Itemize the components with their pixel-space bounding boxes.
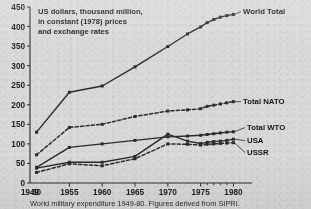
data-point [134, 115, 137, 118]
series-label-leader [234, 128, 245, 132]
y-tick-label: 400 [11, 23, 25, 32]
data-point [101, 123, 104, 126]
x-tick-label: 50 [32, 188, 42, 197]
y-tick-label: 150 [11, 120, 25, 129]
series-label-usa: USA [247, 136, 264, 145]
data-point [225, 101, 228, 104]
series-labels-group: World TotalTotal NATOTotal WTOUSAUSSR [234, 7, 285, 157]
data-point [186, 140, 189, 143]
figure-caption: World military expenditure 1949-80. Figu… [30, 199, 240, 208]
x-tick-label: 1960 [93, 188, 112, 197]
data-point [35, 131, 38, 134]
data-point [68, 91, 71, 94]
data-point [206, 105, 209, 108]
series-label-leader [234, 12, 241, 15]
data-point [219, 131, 222, 134]
x-tick-label: 1975 [192, 188, 211, 197]
series-label-leader [234, 143, 245, 153]
x-tick-label: 1955 [60, 188, 79, 197]
data-point [134, 65, 137, 68]
data-point [35, 153, 38, 156]
data-point [199, 25, 202, 28]
data-point [199, 144, 202, 147]
series-label-total-wto: Total WTO [247, 123, 285, 132]
data-point [219, 142, 222, 145]
data-point [35, 171, 38, 174]
data-point [212, 132, 215, 135]
data-point [166, 142, 169, 145]
data-point [206, 133, 209, 136]
data-point [101, 142, 104, 145]
chart-figure: 050100150200250300350400450 194950195519… [0, 0, 311, 209]
note-line-2: in constant (1978) prices [38, 17, 127, 26]
series-line-total-wto [37, 132, 234, 168]
data-point [68, 126, 71, 129]
data-point [68, 146, 71, 149]
data-point [35, 167, 38, 170]
data-point [199, 107, 202, 110]
series-label-total-nato: Total NATO [243, 97, 285, 106]
data-point [206, 21, 209, 24]
y-tick-label: 100 [11, 140, 25, 149]
data-point [186, 32, 189, 35]
x-axis-labels: 194950195519601965197019751980 [21, 188, 243, 197]
data-point [186, 135, 189, 138]
data-point [166, 135, 169, 138]
x-tick-label: 1980 [224, 188, 243, 197]
x-tick-label: 1965 [126, 188, 145, 197]
x-tick-label: 1970 [159, 188, 178, 197]
data-point [68, 162, 71, 165]
note-line-3: and exchange rates [38, 27, 109, 36]
y-axis-labels: 050100150200250300350400450 [11, 3, 25, 188]
military-expenditure-line-chart: 050100150200250300350400450 194950195519… [0, 0, 311, 209]
y-tick-label: 350 [11, 42, 25, 51]
data-point [225, 142, 228, 145]
data-point [212, 18, 215, 21]
data-point [219, 16, 222, 19]
y-tick-label: 250 [11, 81, 25, 90]
data-point [225, 131, 228, 134]
data-point [166, 110, 169, 113]
y-tick-label: 200 [11, 101, 25, 110]
data-point [134, 139, 137, 142]
y-tick-label: 450 [11, 3, 25, 12]
y-tick-label: 0 [20, 179, 25, 188]
series-line-total-nato [37, 102, 234, 155]
data-point [166, 133, 169, 136]
series-label-leader [234, 139, 245, 140]
y-tick-label: 300 [11, 62, 25, 71]
series-label-world-total: World Total [243, 7, 285, 16]
series-label-ussr: USSR [247, 148, 269, 157]
data-point [186, 108, 189, 111]
data-point [212, 104, 215, 107]
data-point [101, 164, 104, 167]
data-point [225, 14, 228, 17]
data-point [225, 139, 228, 142]
data-point [199, 134, 202, 137]
data-point [101, 85, 104, 88]
data-series-group [37, 14, 234, 172]
note-line-1: US dollars, thousand million, [38, 7, 143, 16]
data-point [206, 143, 209, 146]
data-point [134, 157, 137, 160]
data-point [219, 102, 222, 105]
y-tick-label: 50 [16, 159, 26, 168]
data-point [166, 45, 169, 48]
data-point [186, 143, 189, 146]
data-point [101, 161, 104, 164]
data-point [212, 142, 215, 145]
